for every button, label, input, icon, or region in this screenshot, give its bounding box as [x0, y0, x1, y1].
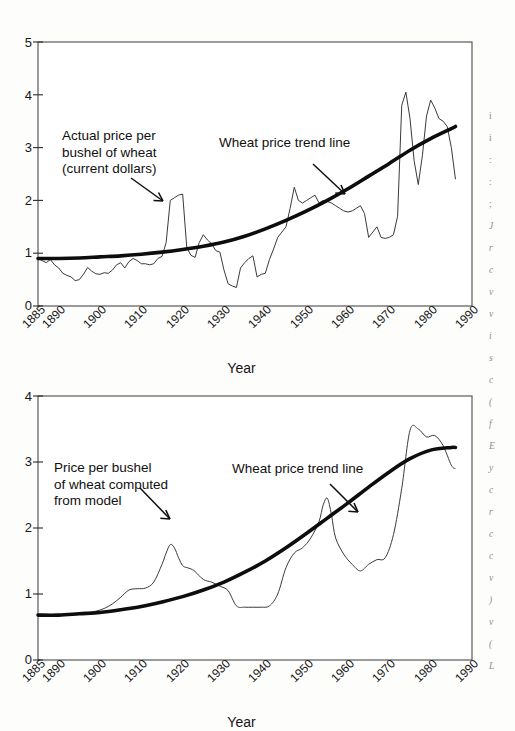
- page-margin-text-column: ii::;Jrcvvisc(fEycrccv)v(L: [485, 0, 515, 731]
- margin-text-line: c: [489, 486, 493, 496]
- figure-actual-wheat-price: 0 1 2 3 4 5: [0, 18, 483, 370]
- margin-text-line: i: [489, 112, 492, 122]
- annotation-actual-price-label: Actual price per bushel of wheat (curren…: [62, 128, 157, 178]
- margin-text-line: i: [489, 134, 492, 144]
- margin-text-line: :: [489, 178, 492, 188]
- margin-text-line: (: [489, 398, 492, 408]
- chart-canvas-bottom: [0, 372, 483, 662]
- margin-text-line: c: [489, 376, 493, 386]
- margin-text-line: s: [489, 354, 493, 364]
- margin-text-line: v: [489, 574, 493, 584]
- plot-frame-bottom: [38, 396, 472, 660]
- scanned-page: 0 1 2 3 4 5: [0, 0, 515, 731]
- margin-text-line: v: [489, 618, 493, 628]
- margin-text-line: ): [489, 596, 492, 606]
- margin-text-line: (: [489, 640, 492, 650]
- margin-text-line: i: [489, 332, 492, 342]
- margin-text-line: v: [489, 310, 493, 320]
- margin-text-line: L: [489, 662, 494, 672]
- margin-text-line: r: [489, 244, 493, 254]
- margin-text-line: E: [489, 442, 495, 452]
- annotation-trend-line-label-bottom: Wheat price trend line: [232, 461, 363, 478]
- margin-text-line: J: [489, 222, 493, 232]
- plot-area-top: 0 1 2 3 4 5: [0, 18, 483, 308]
- margin-text-line: :: [489, 156, 492, 166]
- figure-model-wheat-price: 0 1 2 3 4: [0, 372, 483, 724]
- margin-text-line: f: [489, 420, 492, 430]
- plot-area-bottom: 0 1 2 3 4: [0, 372, 483, 662]
- x-axis-title-bottom: Year: [0, 714, 483, 730]
- margin-text-line: c: [489, 530, 493, 540]
- annotation-model-price-label: Price per bushel of wheat computed from …: [54, 460, 168, 510]
- margin-text-line: v: [489, 288, 493, 298]
- margin-text-line: c: [489, 552, 493, 562]
- annotation-trend-line-label-top: Wheat price trend line: [219, 135, 350, 152]
- margin-text-line: c: [489, 266, 493, 276]
- margin-text-line: r: [489, 508, 493, 518]
- margin-text-line: y: [489, 464, 493, 474]
- margin-text-line: ;: [489, 200, 492, 210]
